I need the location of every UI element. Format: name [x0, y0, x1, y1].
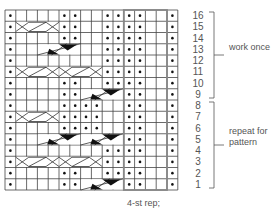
purl-dot-icon: [63, 37, 66, 40]
purl-dot-icon: [117, 149, 120, 152]
purl-dot-icon: [128, 138, 131, 141]
purl-dot-icon: [128, 183, 131, 186]
row-number: 4: [195, 145, 201, 156]
repeat-label-line1: repeat for: [229, 126, 268, 136]
purl-dot-icon: [74, 14, 77, 17]
purl-dot-icon: [117, 37, 120, 40]
row-number: 16: [192, 10, 204, 21]
purl-dot-icon: [128, 82, 131, 85]
purl-dot-icon: [139, 172, 142, 175]
purl-dot-icon: [171, 14, 174, 17]
row-number: 7: [195, 111, 201, 122]
purl-dot-icon: [9, 59, 12, 62]
bracket: [209, 12, 214, 98]
knitting-chart: 16151413121110987654321: [0, 0, 274, 212]
purl-dot-icon: [74, 172, 77, 175]
purl-dot-icon: [128, 104, 131, 107]
purl-dot-icon: [63, 14, 66, 17]
purl-dot-icon: [139, 82, 142, 85]
purl-dot-icon: [128, 116, 131, 119]
row-number: 5: [195, 134, 201, 145]
purl-dot-icon: [128, 14, 131, 17]
purl-dot-icon: [117, 59, 120, 62]
row-number: 3: [195, 156, 201, 167]
row-number: 10: [192, 78, 204, 89]
purl-dot-icon: [85, 116, 88, 119]
purl-dot-icon: [63, 104, 66, 107]
purl-dot-icon: [171, 172, 174, 175]
purl-dot-icon: [9, 149, 12, 152]
purl-dot-icon: [139, 37, 142, 40]
purl-dot-icon: [171, 149, 174, 152]
work-once-label: work once: [229, 42, 270, 52]
row-number: 9: [195, 89, 201, 100]
purl-dot-icon: [9, 161, 12, 164]
purl-dot-icon: [106, 172, 109, 175]
row-number: 2: [195, 168, 201, 179]
purl-dot-icon: [74, 26, 77, 29]
purl-dot-icon: [171, 161, 174, 164]
purl-dot-icon: [139, 59, 142, 62]
purl-dot-icon: [9, 172, 12, 175]
purl-dot-icon: [74, 116, 77, 119]
purl-dot-icon: [139, 93, 142, 96]
purl-dot-icon: [171, 116, 174, 119]
purl-dot-icon: [96, 127, 99, 130]
row-number: 13: [192, 44, 204, 55]
purl-dot-icon: [139, 116, 142, 119]
row-number: 14: [192, 33, 204, 44]
purl-dot-icon: [63, 93, 66, 96]
purl-dot-icon: [9, 104, 12, 107]
purl-dot-icon: [171, 71, 174, 74]
purl-dot-icon: [85, 127, 88, 130]
purl-dot-icon: [128, 26, 131, 29]
purl-dot-icon: [171, 26, 174, 29]
row-number: 8: [195, 100, 201, 111]
purl-dot-icon: [117, 82, 120, 85]
purl-dot-icon: [128, 71, 131, 74]
purl-dot-icon: [106, 26, 109, 29]
purl-dot-icon: [171, 104, 174, 107]
purl-dot-icon: [9, 127, 12, 130]
purl-dot-icon: [139, 26, 142, 29]
purl-dot-icon: [63, 82, 66, 85]
purl-dot-icon: [74, 183, 77, 186]
purl-dot-icon: [117, 26, 120, 29]
purl-dot-icon: [139, 161, 142, 164]
purl-dot-icon: [139, 48, 142, 51]
purl-dot-icon: [117, 48, 120, 51]
purl-dot-icon: [139, 183, 142, 186]
purl-dot-icon: [128, 149, 131, 152]
repeat-note: 4-st rep;: [127, 198, 160, 208]
row-number: 6: [195, 123, 201, 134]
purl-dot-icon: [171, 37, 174, 40]
purl-dot-icon: [96, 116, 99, 119]
purl-dot-icon: [128, 37, 131, 40]
purl-dot-icon: [63, 183, 66, 186]
purl-dot-icon: [9, 14, 12, 17]
purl-dot-icon: [128, 48, 131, 51]
purl-dot-icon: [63, 26, 66, 29]
purl-dot-icon: [128, 93, 131, 96]
purl-dot-icon: [106, 161, 109, 164]
purl-dot-icon: [9, 48, 12, 51]
purl-dot-icon: [139, 14, 142, 17]
purl-dot-icon: [171, 82, 174, 85]
purl-dot-icon: [9, 71, 12, 74]
repeat-label-line2: pattern: [229, 137, 257, 147]
purl-dot-icon: [139, 127, 142, 130]
purl-dot-icon: [171, 48, 174, 51]
row-number: 1: [195, 179, 201, 190]
purl-dot-icon: [9, 138, 12, 141]
purl-dot-icon: [74, 127, 77, 130]
purl-dot-icon: [106, 149, 109, 152]
purl-dot-icon: [74, 93, 77, 96]
row-number: 11: [193, 66, 204, 77]
purl-dot-icon: [9, 37, 12, 40]
purl-dot-icon: [74, 37, 77, 40]
purl-dot-icon: [9, 82, 12, 85]
purl-dot-icon: [128, 59, 131, 62]
purl-dot-icon: [106, 48, 109, 51]
purl-dot-icon: [139, 149, 142, 152]
purl-dot-icon: [139, 71, 142, 74]
